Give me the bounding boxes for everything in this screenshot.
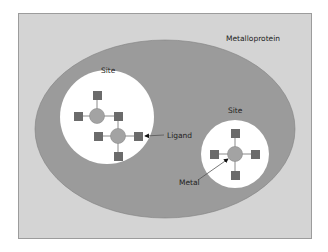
site-left [60, 70, 154, 164]
ligand-square [210, 150, 219, 159]
metal-ion [111, 129, 126, 144]
ligand-square [251, 150, 260, 159]
label-site-right: Site [228, 106, 243, 115]
label-metalloprotein: Metalloprotein [226, 34, 280, 43]
ligand-square [94, 132, 103, 141]
ligand-square [74, 112, 83, 121]
metalloprotein-diagram: Metalloprotein Site Site Ligand Metal [0, 0, 328, 252]
label-site-left: Site [101, 66, 116, 75]
ligand-square [231, 171, 240, 180]
ligand-square [93, 91, 102, 100]
label-ligand: Ligand [167, 131, 192, 140]
label-metal: Metal [179, 178, 200, 187]
metal-ion [90, 109, 105, 124]
ligand-square [231, 129, 240, 138]
ligand-square [114, 152, 123, 161]
site-right [201, 120, 269, 188]
ligand-square [114, 112, 123, 121]
ligand-square [134, 132, 143, 141]
metal-ion [228, 147, 243, 162]
